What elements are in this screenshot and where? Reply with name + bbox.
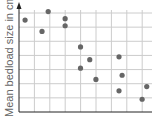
data-point [140,97,145,102]
data-point [78,44,83,49]
data-point [144,84,149,89]
data-point [116,88,121,93]
data-point [93,77,98,82]
data-point [39,29,44,34]
data-point [63,23,68,28]
data-point [46,9,51,14]
data-point [116,54,121,59]
data-point [87,57,92,62]
grid [19,10,152,112]
data-point [63,16,68,21]
y-axis-arrow-icon [17,2,22,9]
data-point [120,73,125,78]
y-axis-label: Mean bedload size in cm [1,0,17,117]
scatter-chart [0,0,152,118]
data-point [78,66,83,71]
data-point [22,17,27,22]
